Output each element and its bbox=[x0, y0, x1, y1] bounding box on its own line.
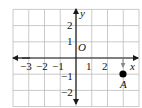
x-tick-label: 1 bbox=[86, 60, 92, 72]
y-axis-label: y bbox=[79, 7, 85, 19]
x-tick-label: 2 bbox=[102, 60, 108, 72]
y-tick-label: 1 bbox=[67, 35, 73, 47]
point-a-label: A bbox=[119, 78, 127, 90]
y-tick-label: −1 bbox=[61, 70, 73, 82]
coordinate-plane: x y O −3 −2 −1 1 2 2 1 −1 −2 A bbox=[0, 0, 142, 108]
y-tick-label: −2 bbox=[61, 86, 73, 98]
y-tick-label: 2 bbox=[67, 19, 73, 31]
x-tick-label: −3 bbox=[20, 60, 32, 72]
origin-label: O bbox=[78, 41, 86, 53]
point-a-marker bbox=[119, 70, 126, 77]
x-axis-label: x bbox=[129, 60, 135, 72]
x-tick-label: −2 bbox=[36, 60, 48, 72]
